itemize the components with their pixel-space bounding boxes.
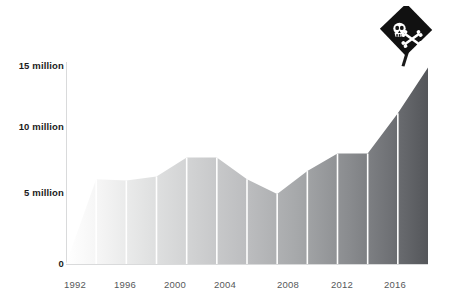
pirate-flag-icon bbox=[374, 6, 436, 68]
chart-container: 15 million 10 million 5 million 0 1992 1… bbox=[0, 0, 449, 304]
